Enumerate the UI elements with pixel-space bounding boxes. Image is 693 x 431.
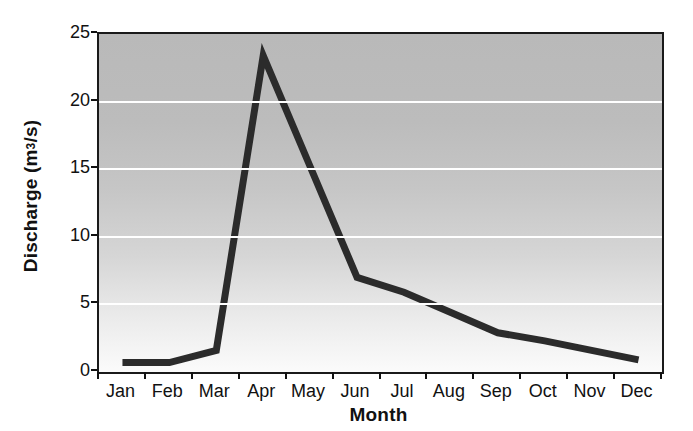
gridline bbox=[99, 236, 662, 238]
y-axis-tick-mark bbox=[91, 369, 97, 371]
plot-area bbox=[97, 32, 664, 374]
y-axis-tick-mark bbox=[91, 234, 97, 236]
y-axis-tick-mark bbox=[91, 166, 97, 168]
x-axis-tick-mark bbox=[97, 372, 99, 379]
x-axis-tick-mark bbox=[238, 372, 240, 379]
x-axis-tick-mark bbox=[332, 372, 334, 379]
gridline bbox=[99, 303, 662, 305]
y-axis-tick-label: 25 bbox=[44, 22, 90, 43]
x-axis-tick-mark bbox=[660, 372, 662, 379]
x-axis-tick-mark bbox=[191, 372, 193, 379]
x-axis-tick-mark bbox=[285, 372, 287, 379]
y-axis-tick-label: 20 bbox=[44, 89, 90, 110]
y-axis-tick-label: 10 bbox=[44, 224, 90, 245]
y-axis-tick-label: 15 bbox=[44, 157, 90, 178]
x-axis-title: Month bbox=[97, 404, 660, 426]
y-axis-tick-mark bbox=[91, 301, 97, 303]
y-axis-tick-labels: 0510152025 bbox=[38, 0, 90, 431]
x-axis-tick-mark bbox=[472, 372, 474, 379]
y-axis-tick-label: 5 bbox=[44, 292, 90, 313]
x-axis-tick-mark bbox=[425, 372, 427, 379]
x-axis-tick-mark bbox=[613, 372, 615, 379]
y-axis-tick-label: 0 bbox=[44, 360, 90, 381]
gridline bbox=[99, 168, 662, 170]
x-axis-tick-label: Dec bbox=[607, 381, 667, 402]
y-axis-tick-mark bbox=[91, 31, 97, 33]
x-axis-tick-mark bbox=[144, 372, 146, 379]
x-axis-tick-mark bbox=[379, 372, 381, 379]
gridline bbox=[99, 101, 662, 103]
x-axis-tick-mark bbox=[519, 372, 521, 379]
chart-figure: Discharge (m3/s) 0510152025 Month JanFeb… bbox=[0, 0, 693, 431]
y-axis-tick-mark bbox=[91, 99, 97, 101]
x-axis-tick-mark bbox=[566, 372, 568, 379]
line-series-svg bbox=[99, 34, 662, 372]
